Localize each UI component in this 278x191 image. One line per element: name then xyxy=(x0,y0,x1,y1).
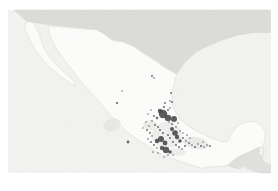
screenshot-page xyxy=(0,0,278,191)
mexico-occurrence-map xyxy=(0,0,278,191)
grain-overlay-layer xyxy=(8,10,271,173)
grain-texture xyxy=(8,10,271,173)
